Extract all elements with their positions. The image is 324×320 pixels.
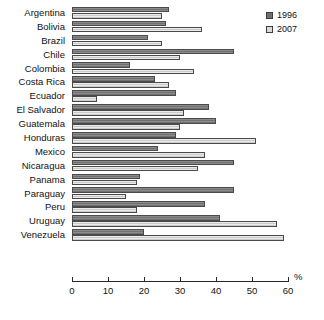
bar-2007 [72,235,284,241]
category-label: Paraguay [0,187,68,201]
bar-row: Venezuela [0,228,324,242]
category-label: Panama [0,173,68,187]
category-label: El Salvador [0,103,68,117]
x-axis-tick [288,277,289,282]
bar-1996 [72,201,205,207]
bar-2007 [72,221,277,227]
category-label: Mexico [0,145,68,159]
bar-chart: 1996 2007 ArgentinaBoliviaBrazilChileCol… [0,0,324,320]
bar-row: Honduras [0,131,324,145]
bar-1996 [72,146,158,152]
bar-2007 [72,55,180,61]
bar-pair [72,103,322,117]
bar-row: Guatemala [0,117,324,131]
bar-2007 [72,27,202,33]
bar-pair [72,173,322,187]
category-label: Peru [0,200,68,214]
bar-pair [72,34,322,48]
bar-2007 [72,207,137,213]
bar-2007 [72,13,162,19]
x-axis-tick-label: 10 [103,286,114,296]
bar-rows: ArgentinaBoliviaBrazilChileColombiaCosta… [0,6,324,242]
bar-1996 [72,104,209,110]
category-label: Guatemala [0,117,68,131]
x-axis-unit-label: % [294,272,302,282]
bar-pair [72,228,322,242]
bar-1996 [72,229,144,235]
bar-1996 [72,160,234,166]
bar-1996 [72,76,155,82]
bar-2007 [72,180,137,186]
category-label: Chile [0,48,68,62]
bar-2007 [72,124,180,130]
bar-1996 [72,49,234,55]
bar-2007 [72,69,194,75]
bar-row: Paraguay [0,187,324,201]
bar-1996 [72,118,216,124]
bar-pair [72,48,322,62]
bar-row: Peru [0,200,324,214]
bar-2007 [72,82,169,88]
x-axis-tick-label: 0 [69,286,74,296]
bar-pair [72,200,322,214]
bar-row: Uruguay [0,214,324,228]
category-label: Argentina [0,6,68,20]
bar-pair [72,6,322,20]
bar-1996 [72,7,169,13]
x-axis-tick-label: 30 [175,286,186,296]
bar-2007 [72,96,97,102]
x-axis-tick [72,277,73,282]
bar-pair [72,145,322,159]
category-label: Colombia [0,62,68,76]
bar-row: Bolivia [0,20,324,34]
x-axis-tick [216,277,217,282]
bar-row: Nicaragua [0,159,324,173]
x-axis-tick [144,277,145,282]
bar-1996 [72,174,140,180]
category-label: Uruguay [0,214,68,228]
bar-2007 [72,41,162,47]
x-axis-tick [252,277,253,282]
bar-pair [72,214,322,228]
x-axis-tick-label: 50 [247,286,258,296]
category-label: Nicaragua [0,159,68,173]
bar-2007 [72,166,198,172]
bar-1996 [72,90,176,96]
bar-row: Colombia [0,62,324,76]
bar-2007 [72,152,205,158]
plot-area: ArgentinaBoliviaBrazilChileColombiaCosta… [0,6,324,276]
x-axis-tick-label: 40 [211,286,222,296]
bar-pair [72,131,322,145]
bar-2007 [72,138,256,144]
bar-row: Chile [0,48,324,62]
bar-2007 [72,110,184,116]
x-axis-tick [108,277,109,282]
bar-2007 [72,194,126,200]
x-axis: 0102030405060 [72,281,288,282]
bar-pair [72,117,322,131]
bar-row: El Salvador [0,103,324,117]
category-label: Brazil [0,34,68,48]
bar-pair [72,75,322,89]
bar-pair [72,187,322,201]
bar-pair [72,159,322,173]
bar-1996 [72,35,148,41]
bar-pair [72,62,322,76]
bar-row: Ecuador [0,89,324,103]
bar-1996 [72,187,234,193]
bar-pair [72,20,322,34]
category-label: Ecuador [0,89,68,103]
bar-row: Panama [0,173,324,187]
bar-1996 [72,21,166,27]
bar-pair [72,89,322,103]
category-label: Venezuela [0,228,68,242]
bar-row: Argentina [0,6,324,20]
bar-row: Mexico [0,145,324,159]
category-label: Costa Rica [0,75,68,89]
category-label: Bolivia [0,20,68,34]
x-axis-tick [180,277,181,282]
x-axis-tick-label: 20 [139,286,150,296]
bar-row: Costa Rica [0,75,324,89]
bar-row: Brazil [0,34,324,48]
bar-1996 [72,62,130,68]
